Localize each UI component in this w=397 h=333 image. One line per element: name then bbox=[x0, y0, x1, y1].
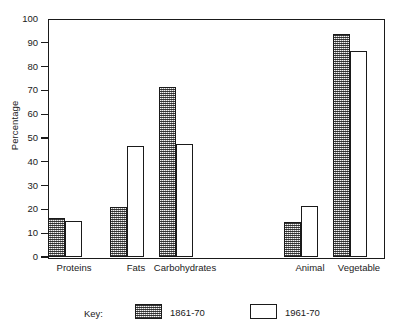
bar-chart: Percentage 0102030405060708090100 Protei… bbox=[0, 0, 397, 333]
legend-swatch-1961-70 bbox=[250, 304, 277, 319]
x-axis-label-vegetable: Vegetable bbox=[338, 262, 380, 273]
bar-animal-1961-70 bbox=[301, 206, 318, 257]
y-tick-label: 40 bbox=[4, 157, 38, 167]
x-axis-label-carbohydrates: Carbohydrates bbox=[154, 262, 216, 273]
legend-swatch-1861-70 bbox=[135, 304, 162, 319]
chart-legend: Key: 1861-701961-70 bbox=[0, 303, 397, 327]
bar-animal-1861-70 bbox=[284, 222, 301, 257]
bar-carbohydrates-1861-70 bbox=[159, 87, 176, 257]
y-tick-label: 100 bbox=[4, 14, 38, 24]
y-tick-label: 80 bbox=[4, 62, 38, 72]
y-tick-label: 60 bbox=[4, 109, 38, 119]
legend-title: Key: bbox=[84, 308, 103, 319]
y-tick-label: 70 bbox=[4, 85, 38, 95]
bar-carbohydrates-1961-70 bbox=[176, 144, 193, 257]
y-tick-label: 20 bbox=[4, 204, 38, 214]
legend-label-1961-70: 1961-70 bbox=[285, 307, 320, 318]
y-tick-label: 0 bbox=[4, 252, 38, 262]
bar-fats-1961-70 bbox=[127, 146, 144, 257]
legend-label-1861-70: 1861-70 bbox=[170, 307, 205, 318]
bar-fats-1861-70 bbox=[110, 207, 127, 257]
y-tick-label: 90 bbox=[4, 38, 38, 48]
x-axis-label-proteins: Proteins bbox=[57, 262, 92, 273]
x-axis-label-fats: Fats bbox=[127, 262, 145, 273]
bar-vegetable-1961-70 bbox=[350, 51, 367, 257]
y-tick-label: 50 bbox=[4, 133, 38, 143]
x-axis-label-animal: Animal bbox=[295, 262, 324, 273]
bar-vegetable-1861-70 bbox=[333, 34, 350, 257]
bar-proteins-1861-70 bbox=[48, 218, 65, 257]
bar-proteins-1961-70 bbox=[65, 221, 82, 257]
y-tick-label: 10 bbox=[4, 228, 38, 238]
y-tick-label: 30 bbox=[4, 181, 38, 191]
